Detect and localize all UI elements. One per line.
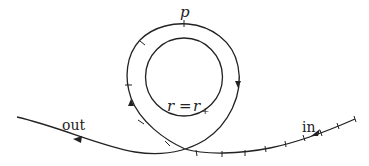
svg-text:r: r bbox=[193, 97, 201, 115]
svg-text:r: r bbox=[167, 97, 175, 115]
svg-text:+: + bbox=[201, 105, 209, 116]
horizon-label: r = r + bbox=[167, 97, 209, 116]
tick-marks bbox=[125, 20, 356, 157]
point-label: p bbox=[180, 3, 190, 21]
outgoing-label: out bbox=[62, 117, 85, 133]
arrow-right-down-icon bbox=[235, 81, 241, 88]
incoming-label: in bbox=[302, 119, 316, 135]
svg-text:=: = bbox=[179, 97, 192, 115]
orbit-diagram: p r = r + in out bbox=[0, 0, 369, 166]
arrow-out-icon bbox=[73, 136, 82, 143]
